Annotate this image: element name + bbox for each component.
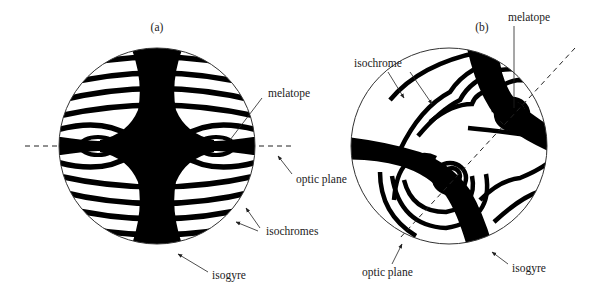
interference-figure-a — [50, 44, 264, 250]
panel-b-label: (b) — [475, 21, 489, 34]
label-optic-plane-b: optic plane — [362, 266, 413, 279]
interference-figure-diagram: (a) — [0, 0, 599, 294]
label-melatope-a: melatope — [268, 87, 310, 100]
panel-a-label: (a) — [151, 21, 164, 34]
label-isogyre-a: isogyre — [212, 269, 246, 282]
interference-figure-b — [336, 44, 560, 250]
label-isochromes-a: isochromes — [266, 225, 319, 237]
label-melatope-b: melatope — [508, 11, 550, 24]
panel-a: (a) — [25, 21, 347, 282]
label-isogyre-b: isogyre — [512, 262, 546, 275]
panel-b: (b) — [336, 11, 575, 279]
label-optic-plane-a: optic plane — [296, 173, 347, 186]
label-isochrome-b: isochrome — [354, 57, 402, 69]
